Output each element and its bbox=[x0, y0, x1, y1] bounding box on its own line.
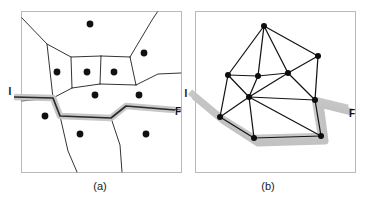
voronoi-site bbox=[84, 69, 91, 76]
graph-node bbox=[217, 114, 223, 120]
voronoi-site bbox=[42, 113, 49, 120]
graph-node bbox=[318, 133, 324, 139]
voronoi-site bbox=[92, 92, 99, 99]
voronoi-site bbox=[141, 50, 148, 57]
voronoi-site bbox=[77, 131, 84, 138]
graph-node bbox=[251, 135, 257, 141]
figure-root: I F (a) bbox=[0, 0, 373, 200]
panel-b: I F (b) bbox=[185, 12, 356, 193]
graph-node bbox=[255, 73, 261, 79]
graph-node bbox=[315, 53, 321, 59]
panel-b-end-label: F bbox=[349, 108, 355, 119]
graph-node bbox=[261, 23, 267, 29]
panel-a-start-label: I bbox=[9, 86, 12, 97]
panel-a-caption: (a) bbox=[93, 180, 106, 192]
panel-a: I F (a) bbox=[9, 11, 182, 192]
graph-node bbox=[285, 70, 291, 76]
graph-node bbox=[246, 94, 252, 100]
voronoi-site bbox=[143, 131, 150, 138]
panel-b-start-label: I bbox=[185, 88, 188, 99]
graph-node bbox=[312, 97, 318, 103]
panel-b-frame bbox=[196, 12, 356, 173]
voronoi-site bbox=[87, 21, 94, 28]
panel-a-end-label: F bbox=[175, 106, 181, 117]
panel-b-caption: (b) bbox=[261, 180, 274, 192]
panel-a-frame bbox=[22, 12, 182, 173]
voronoi-site bbox=[54, 69, 61, 76]
graph-node bbox=[225, 72, 231, 78]
voronoi-site bbox=[136, 92, 143, 99]
voronoi-site bbox=[111, 69, 118, 76]
